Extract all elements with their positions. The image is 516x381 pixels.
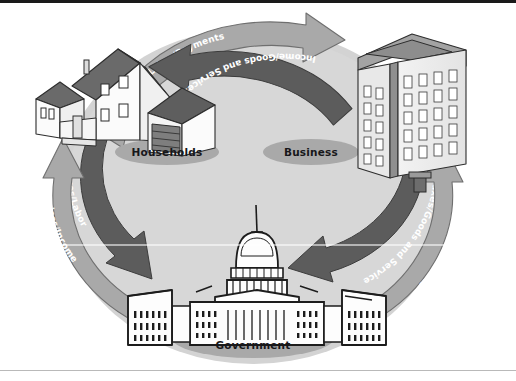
diagram-canvas: Labor/Payments Income/Goods and Services… [0,0,516,381]
government-label: Government [215,339,290,351]
business-label: Business [284,146,338,158]
bottom-border-rule [0,370,516,371]
scan-artifact-line [0,244,516,246]
households-label: Households [132,146,203,158]
circular-flow-svg: Labor/Payments Income/Goods and Services… [0,0,516,381]
